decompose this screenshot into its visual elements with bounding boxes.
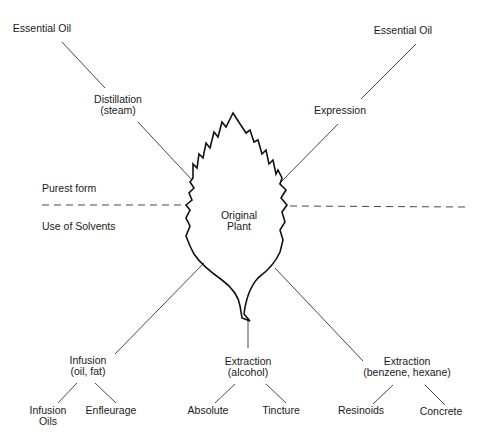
connector-solvent-concrete: [425, 385, 445, 405]
node-infusion-oils-line2: Oils: [30, 416, 67, 427]
node-extraction-solvent: Extraction (benzene, hexane): [363, 356, 451, 378]
connector-distillation-essential-oil: [62, 42, 105, 88]
node-essential-oil-left: Essential Oil: [13, 23, 71, 34]
connector-leaf-distillation: [138, 122, 192, 180]
connector-leaf-infusion: [115, 263, 204, 354]
node-expression: Expression: [314, 105, 366, 116]
node-resinoids: Resinoids: [338, 405, 384, 416]
connector-infusion-enfleurage: [95, 383, 116, 403]
node-infusion-subtitle: (oil, fat): [70, 366, 107, 377]
connector-leaf-expression: [279, 124, 338, 184]
zone-label-use-of-solvents: Use of Solvents: [42, 221, 116, 232]
connector-extraction-absolute: [215, 384, 235, 403]
node-concrete: Concrete: [420, 406, 463, 417]
connector-expression-essential-oil: [361, 44, 416, 99]
node-enfleurage: Enfleurage: [86, 405, 137, 416]
center-label-line2: Plant: [221, 221, 257, 232]
node-infusion-oils: Infusion Oils: [30, 405, 67, 427]
node-absolute: Absolute: [188, 405, 229, 416]
divider-right: [290, 206, 466, 207]
center-label-original-plant: Original Plant: [221, 210, 257, 232]
connector-leaf-extraction-solvent: [275, 268, 363, 361]
zone-label-purest-form: Purest form: [42, 183, 96, 194]
node-distillation: Distillation (steam): [94, 94, 142, 116]
connector-solvent-resinoids: [373, 385, 393, 404]
node-essential-oil-right: Essential Oil: [374, 25, 432, 36]
connector-infusion-infusion-oils: [58, 383, 77, 403]
node-extraction-alcohol-subtitle: (alcohol): [225, 367, 272, 378]
node-infusion: Infusion (oil, fat): [70, 355, 107, 377]
connector-extraction-tincture: [266, 384, 286, 403]
node-tincture: Tincture: [262, 405, 300, 416]
node-distillation-subtitle: (steam): [94, 105, 142, 116]
node-extraction-alcohol: Extraction (alcohol): [225, 356, 272, 378]
node-extraction-solvent-subtitle: (benzene, hexane): [363, 367, 451, 378]
